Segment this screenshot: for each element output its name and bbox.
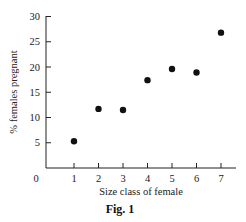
data-point bbox=[71, 138, 77, 144]
y-tick-label: 5 bbox=[35, 137, 40, 148]
y-tick-label: 20 bbox=[30, 62, 41, 73]
y-tick-label: 10 bbox=[30, 112, 41, 123]
x-tick-label: 1 bbox=[71, 173, 76, 184]
axes bbox=[46, 16, 236, 168]
x-tick-label: 6 bbox=[194, 173, 199, 184]
data-point bbox=[218, 29, 224, 35]
x-tick-label: 4 bbox=[145, 173, 151, 184]
x-tick-label: 7 bbox=[218, 173, 223, 184]
x-tick-label: 3 bbox=[120, 173, 125, 184]
figure-caption: Fig. 1 bbox=[106, 202, 135, 216]
data-point bbox=[95, 106, 101, 112]
data-point bbox=[169, 66, 175, 72]
y-tick-label: 30 bbox=[30, 11, 41, 22]
data-points bbox=[71, 29, 224, 144]
x-axis-label: Size class of female bbox=[99, 186, 183, 197]
data-point bbox=[193, 69, 199, 75]
y-axis-label: % females pregnant bbox=[8, 50, 19, 133]
data-point bbox=[144, 77, 150, 83]
data-point bbox=[120, 107, 126, 113]
scatter-chart: 51015202530 1234567 0 % females pregnant… bbox=[0, 0, 246, 222]
y-tick-label: 25 bbox=[30, 36, 41, 47]
y-tick-label: 15 bbox=[30, 87, 41, 98]
x-ticks: 1234567 bbox=[71, 163, 223, 184]
y-ticks: 51015202530 bbox=[30, 11, 52, 148]
x-tick-label: 5 bbox=[169, 173, 174, 184]
x-tick-label: 2 bbox=[96, 173, 101, 184]
origin-label: 0 bbox=[33, 173, 38, 184]
